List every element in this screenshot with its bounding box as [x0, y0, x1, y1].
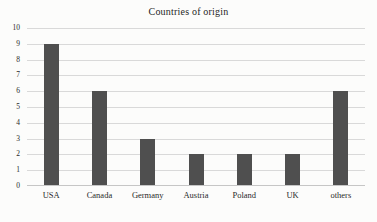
bar-uk: [285, 154, 300, 185]
x-tick-label: others: [317, 190, 365, 200]
y-tick-label: 6: [0, 86, 20, 96]
bar-others: [333, 91, 348, 185]
chart-title: Countries of origin: [0, 6, 377, 17]
x-axis-line: [27, 185, 365, 186]
bar-canada: [92, 91, 107, 185]
gridline: [27, 107, 365, 108]
gridline: [27, 91, 365, 92]
bar-austria: [189, 154, 204, 185]
x-tick-label: Canada: [75, 190, 123, 200]
x-tick-label: Germany: [124, 190, 172, 200]
x-tick-label: UK: [268, 190, 316, 200]
x-tick-label: Poland: [220, 190, 268, 200]
y-tick-label: 0: [0, 181, 20, 191]
y-tick-label: 7: [0, 70, 20, 80]
gridline: [27, 60, 365, 61]
y-tick-label: 2: [0, 149, 20, 159]
x-tick-label: Austria: [172, 190, 220, 200]
gridline: [27, 28, 365, 29]
plot-area: [27, 28, 365, 186]
y-tick-label: 1: [0, 165, 20, 175]
y-tick-label: 4: [0, 118, 20, 128]
y-tick-label: 3: [0, 134, 20, 144]
gridline: [27, 75, 365, 76]
y-tick-label: 5: [0, 102, 20, 112]
bar-usa: [44, 44, 59, 185]
gridline: [27, 123, 365, 124]
x-tick-label: USA: [27, 190, 75, 200]
bar-poland: [237, 154, 252, 185]
bar-chart: Countries of origin 012345678910 USACana…: [0, 0, 377, 222]
gridline: [27, 139, 365, 140]
y-tick-label: 9: [0, 39, 20, 49]
bar-germany: [140, 139, 155, 185]
y-tick-label: 10: [0, 23, 20, 33]
y-tick-label: 8: [0, 55, 20, 65]
gridline: [27, 44, 365, 45]
